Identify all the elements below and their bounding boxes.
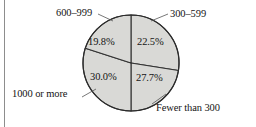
slice-value-fewer-than-300: 27.7% — [136, 73, 163, 84]
category-label-fewer-than-300: Fewer than 300 — [156, 103, 220, 114]
category-label-300-599: 300–599 — [170, 9, 206, 20]
leader-line-600-999 — [98, 14, 113, 21]
leader-line-300-599 — [151, 14, 168, 21]
pie-chart-figure: 22.5% 19.8% 30.0% 27.7% 600–999 300–599 … — [0, 0, 256, 127]
slice-value-300-599: 22.5% — [137, 37, 164, 48]
slice-value-600-999: 19.8% — [88, 37, 115, 48]
category-label-600-999: 600–999 — [56, 8, 92, 19]
slice-value-1000-or-more: 30.0% — [90, 72, 117, 83]
category-label-1000-or-more: 1000 or more — [12, 89, 67, 100]
